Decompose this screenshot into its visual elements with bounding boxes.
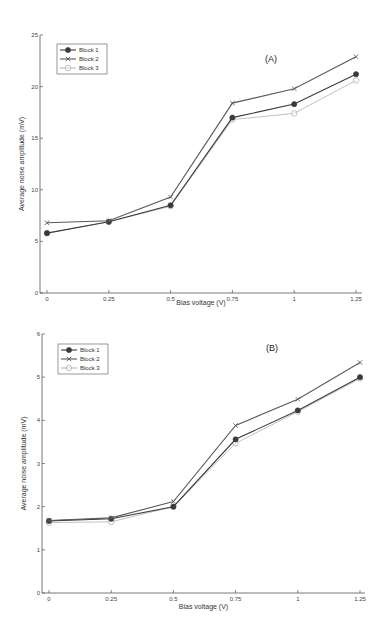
legend: Block 1Block 2Block 3 [58,344,108,374]
x-tick-label: 0.25 [103,296,115,302]
series-block-1 [44,72,358,236]
x-tick-label: 0.5 [166,296,175,302]
y-axis-label: Average noise amplitude (mV) [20,416,28,510]
y-tick-label: 6 [37,331,41,337]
legend-label: Block 3 [80,365,100,371]
series-block-1 [46,375,362,524]
x-tick-label: 0.25 [105,596,117,602]
x-tick-label: 1 [296,596,300,602]
series-block-2 [47,360,362,522]
x-tick-label: 1.25 [350,296,362,302]
x-tick-label: 0.5 [169,596,178,602]
x-axis-label: Bias voltage (V) [176,299,225,307]
x-tick-label: 0.75 [227,296,239,302]
x-tick-label: 0 [45,296,49,302]
legend-item: Block 3 [60,65,99,71]
legend-item: Block 2 [61,356,100,362]
legend: Block 1Block 2Block 3 [57,44,107,74]
legend-label: Block 1 [80,347,100,353]
x-axis-label: Bias voltage (V) [179,603,228,611]
chart-panel-b: 012345600.250.50.7511.25Bias voltage (V)… [20,331,366,611]
x-tick-label: 0.75 [230,596,242,602]
y-tick-label: 4 [37,417,41,423]
panel-label: (A) [265,54,277,64]
legend-label: Block 2 [79,56,99,62]
y-tick-label: 0 [37,590,41,596]
legend-label: Block 2 [80,356,100,362]
panel-label: (B) [266,343,278,353]
x-tick-label: 1 [293,296,297,302]
series-block-2 [45,54,358,225]
y-tick-label: 20 [31,84,38,90]
y-tick-label: 3 [37,461,41,467]
y-tick-label: 25 [31,32,38,38]
legend-label: Block 1 [79,47,99,53]
figure: 051015202500.250.50.7511.25Bias voltage … [0,0,385,639]
x-tick-label: 0 [47,596,51,602]
series-block-3 [46,376,363,526]
y-tick-label: 1 [37,547,41,553]
legend-item: Block 2 [60,56,99,62]
y-tick-label: 15 [31,135,38,141]
y-tick-label: 2 [37,504,41,510]
y-tick-label: 10 [31,187,38,193]
legend-label: Block 3 [79,65,99,71]
x-tick-label: 1.25 [354,596,366,602]
y-tick-label: 5 [35,238,39,244]
y-tick-label: 5 [37,374,41,380]
legend-item: Block 3 [61,365,100,371]
chart-panel-a: 051015202500.250.50.7511.25Bias voltage … [18,32,362,307]
y-tick-label: 0 [35,290,39,296]
series-block-3 [44,78,359,236]
y-axis-label: Average noise amplitude (mV) [18,117,26,211]
